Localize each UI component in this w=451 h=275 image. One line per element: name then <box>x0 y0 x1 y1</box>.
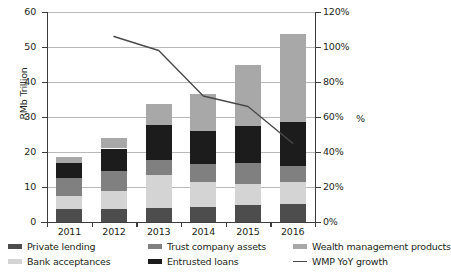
y2-axis-tick <box>316 152 321 153</box>
y-axis-title: RMb Trillion <box>18 49 29 139</box>
bar-segment[interactable] <box>280 204 306 222</box>
bar-segment[interactable] <box>235 205 261 222</box>
y2-axis-tick-label: 120% <box>323 7 357 17</box>
y-axis-tick-label: 40 <box>6 77 36 87</box>
legend-color-swatch <box>293 244 307 249</box>
x-axis-tick-label: 2012 <box>92 227 136 237</box>
y2-axis-line <box>315 12 316 223</box>
y2-axis-tick-label: 60% <box>323 112 357 122</box>
bar-segment[interactable] <box>101 138 127 149</box>
legend-label: Trust company assets <box>167 241 266 252</box>
y2-axis-tick-label: 20% <box>323 182 357 192</box>
legend-item[interactable]: Wealth management products <box>293 240 451 253</box>
bar-segment[interactable] <box>56 157 82 163</box>
legend-label: WMP YoY growth <box>312 256 388 267</box>
y2-axis-tick <box>316 82 321 83</box>
y2-axis-tick-label: 40% <box>323 147 357 157</box>
legend-label: Wealth management products <box>312 241 451 252</box>
legend-color-swatch <box>148 244 162 249</box>
bar-segment[interactable] <box>235 126 261 163</box>
y-axis-tick-label: 20 <box>6 147 36 157</box>
y-axis-tick-label: 60 <box>6 7 36 17</box>
legend-item[interactable]: WMP YoY growth <box>293 255 388 268</box>
y2-axis-tick-label: 100% <box>323 42 357 52</box>
bar-segment[interactable] <box>146 175 172 208</box>
bar-segment[interactable] <box>56 178 82 196</box>
y2-axis-tick <box>316 187 321 188</box>
bar-stack[interactable] <box>56 12 82 222</box>
legend-item[interactable]: Bank acceptances <box>8 255 110 268</box>
legend-label: Private lending <box>27 241 95 252</box>
legend-item[interactable]: Private lending <box>8 240 95 253</box>
y-axis-tick-label: 50 <box>6 42 36 52</box>
bar-segment[interactable] <box>190 131 216 164</box>
legend-color-swatch <box>148 259 162 264</box>
legend-item[interactable]: Entrusted loans <box>148 255 239 268</box>
legend-line-swatch <box>293 261 307 263</box>
bar-segment[interactable] <box>146 104 172 125</box>
y2-axis-tick <box>316 117 321 118</box>
bar-stack[interactable] <box>190 12 216 222</box>
bar-stack[interactable] <box>235 12 261 222</box>
bar-segment[interactable] <box>235 184 261 205</box>
legend-label: Entrusted loans <box>167 256 239 267</box>
bar-segment[interactable] <box>146 208 172 222</box>
y2-axis-tick <box>316 12 321 13</box>
bar-segment[interactable] <box>190 207 216 222</box>
x-axis-tick-label: 2015 <box>226 227 270 237</box>
x-axis-tick-label: 2011 <box>47 227 91 237</box>
bar-segment[interactable] <box>56 209 82 222</box>
bar-segment[interactable] <box>101 191 127 209</box>
y2-axis-tick-label: 80% <box>323 77 357 87</box>
x-axis-tick-label: 2016 <box>271 227 315 237</box>
x-axis-tick <box>315 222 316 227</box>
legend-item[interactable]: Trust company assets <box>148 240 266 253</box>
bar-stack[interactable] <box>101 12 127 222</box>
y2-axis-tick <box>316 47 321 48</box>
y-axis-tick-label: 10 <box>6 182 36 192</box>
bar-segment[interactable] <box>146 160 172 176</box>
bars-area <box>47 12 315 222</box>
bar-segment[interactable] <box>56 163 82 178</box>
bar-segment[interactable] <box>280 182 306 204</box>
bar-segment[interactable] <box>280 122 306 165</box>
bar-stack[interactable] <box>146 12 172 222</box>
x-axis-tick-label: 2014 <box>181 227 225 237</box>
legend-color-swatch <box>8 259 22 264</box>
bar-segment[interactable] <box>101 209 127 222</box>
y2-axis-title: % <box>356 113 365 124</box>
chart-legend: Private lendingBank acceptancesTrust com… <box>8 240 382 270</box>
bar-segment[interactable] <box>280 166 306 182</box>
bar-stack[interactable] <box>280 12 306 222</box>
bar-segment[interactable] <box>280 34 306 123</box>
bar-segment[interactable] <box>146 125 172 160</box>
x-axis-tick-label: 2013 <box>137 227 181 237</box>
bar-segment[interactable] <box>190 94 216 130</box>
y2-axis-tick-label: 0% <box>323 217 357 227</box>
bar-segment[interactable] <box>235 65 261 126</box>
y-axis-tick-label: 0 <box>6 217 36 227</box>
bar-segment[interactable] <box>190 164 216 182</box>
legend-label: Bank acceptances <box>27 256 110 267</box>
y-axis-tick-label: 30 <box>6 112 36 122</box>
bar-segment[interactable] <box>235 163 261 184</box>
legend-color-swatch <box>8 244 22 249</box>
bar-segment[interactable] <box>101 171 127 191</box>
bar-segment[interactable] <box>190 182 216 208</box>
bar-segment[interactable] <box>56 196 82 209</box>
bar-segment[interactable] <box>101 149 127 171</box>
